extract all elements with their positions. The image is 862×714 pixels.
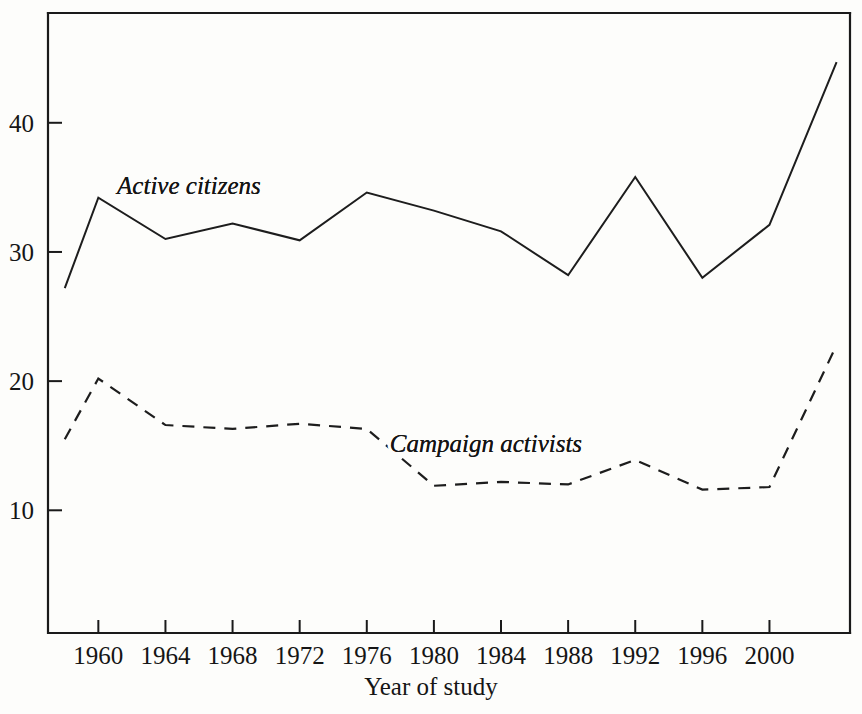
x-tick-label-1992: 1992 — [610, 642, 660, 669]
x-tick-label-1960: 1960 — [73, 642, 123, 669]
data-series-group — [65, 62, 837, 490]
x-tick-label-1980: 1980 — [409, 642, 459, 669]
y-tick-label-30: 30 — [9, 239, 34, 266]
series-inline-labels: Active citizensActive citizensCampaign a… — [115, 172, 582, 457]
x-axis-tick-labels: 1960196419681972197619801984198819921996… — [73, 642, 794, 669]
chart-axes — [48, 13, 850, 633]
x-tick-label-1984: 1984 — [476, 642, 527, 669]
x-axis-title: Year of study — [364, 673, 498, 700]
x-tick-label-1968: 1968 — [208, 642, 258, 669]
y-axis-tick-labels: 10203040 — [9, 110, 34, 525]
series-label-active-citizens: Active citizens — [115, 172, 261, 199]
line-chart: 1960196419681972197619801984198819921996… — [0, 0, 862, 714]
x-tick-label-1996: 1996 — [677, 642, 727, 669]
figure-canvas: 1960196419681972197619801984198819921996… — [0, 0, 862, 714]
x-tick-label-1972: 1972 — [275, 642, 325, 669]
x-tick-label-1976: 1976 — [342, 642, 392, 669]
y-tick-label-10: 10 — [9, 497, 34, 524]
axis-ticks — [48, 123, 769, 633]
x-tick-label-1964: 1964 — [140, 642, 191, 669]
x-tick-label-1988: 1988 — [543, 642, 593, 669]
y-tick-label-40: 40 — [9, 110, 34, 137]
series-label-campaign-activists: Campaign activists — [390, 430, 582, 457]
x-tick-label-2000: 2000 — [744, 642, 794, 669]
axis-spines — [48, 13, 850, 633]
series-line-campaign-activists — [65, 345, 837, 490]
y-tick-label-20: 20 — [9, 368, 34, 395]
